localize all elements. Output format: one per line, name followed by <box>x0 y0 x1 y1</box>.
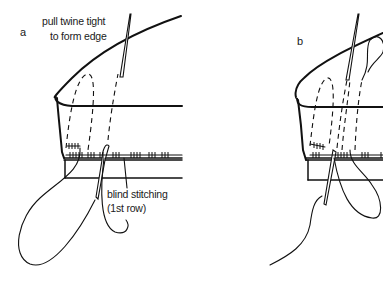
annotation-pull-twine-line2: to form edge <box>50 30 107 42</box>
stitch-ticks <box>69 143 168 158</box>
hidden-twine-loop-b1 <box>310 78 333 146</box>
blind-stitch-row-b <box>310 142 383 158</box>
panel-a-label: a <box>20 26 27 38</box>
hidden-twine-loop <box>66 74 94 150</box>
seat-front-face-b <box>298 100 306 160</box>
hidden-twine-loop-b3 <box>342 80 350 150</box>
needle-b-upper <box>346 14 359 80</box>
blind-stitch-row-a <box>66 143 182 158</box>
annotation-leader-a <box>124 158 127 188</box>
panel-b: b <box>270 14 383 265</box>
stitch-ticks-b <box>313 142 381 158</box>
annotation-blind-stitching-line1: blind stitching <box>107 188 168 200</box>
twine-left-loop <box>19 148 95 265</box>
needle-a-upper <box>120 14 131 77</box>
annotation-pull-twine-line1: pull twine tight <box>42 15 106 27</box>
panel-a: a pull twine tight to form edge <box>19 14 182 265</box>
seat-edge-roll-b <box>296 33 383 107</box>
annotation-blind-stitching-line2: (1st row) <box>107 202 146 214</box>
seat-front-face <box>57 98 64 158</box>
panel-b-label: b <box>297 35 303 47</box>
twine-top-loop-b <box>362 37 383 80</box>
diagram-canvas: a pull twine tight to form edge <box>0 0 383 282</box>
twine-tail-b <box>270 196 322 265</box>
hidden-twine-loop-b4 <box>355 80 362 150</box>
